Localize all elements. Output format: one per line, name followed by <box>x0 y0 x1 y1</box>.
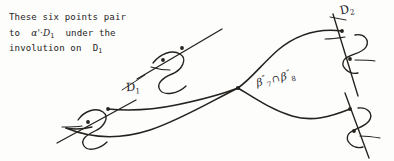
node-upper-left-loop <box>153 52 186 93</box>
node-upper-right-transversal <box>333 14 358 96</box>
curve-label-d1: D1 <box>126 80 141 96</box>
node-point-4 <box>86 120 90 124</box>
node-point-1 <box>180 46 184 50</box>
curve-label-d2: D2 <box>339 1 356 19</box>
curve-diagram-svg <box>0 0 394 161</box>
node-upper-right <box>325 14 375 96</box>
node-upper-right-loop <box>343 35 367 74</box>
node-lower-right <box>345 93 380 158</box>
node-upper-left <box>137 29 222 93</box>
node-upper-right-tick-top <box>325 37 345 39</box>
curve-label-d1-subscript: 1 <box>135 86 140 95</box>
node-point-2 <box>161 58 165 62</box>
node-point-6 <box>348 57 352 61</box>
node-point-3 <box>106 107 110 111</box>
node-lower-left-tick <box>62 126 82 127</box>
node-point-5 <box>340 29 344 33</box>
node-lower-right-transversal <box>345 93 369 158</box>
curve-d1-lower-branch <box>66 88 238 137</box>
curve-d2-lower-sweep <box>238 88 350 119</box>
node-point-7 <box>348 107 352 111</box>
node-point-8 <box>352 129 356 133</box>
node-lower-right-loop <box>347 108 370 148</box>
diagram-page: These six points pair to α'·D1 under the… <box>0 0 394 161</box>
central-crossing-point <box>236 86 240 90</box>
node-lower-right-tick <box>360 136 380 138</box>
node-lower-left <box>57 100 136 149</box>
node-upper-right-tick-bottom <box>355 60 375 61</box>
